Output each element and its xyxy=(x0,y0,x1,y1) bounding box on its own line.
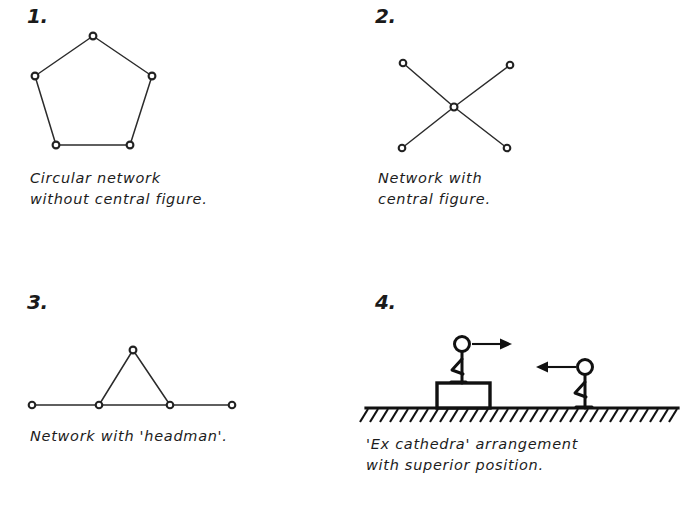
node-mid-right xyxy=(167,402,174,409)
panel-3: 3. Network with 'headman'. xyxy=(0,262,348,523)
panel-2-caption: Network with central figure. xyxy=(378,168,491,210)
node-far-left xyxy=(29,402,36,409)
panel-1-caption: Circular network without central figure. xyxy=(30,168,208,210)
node-bottom-right xyxy=(127,142,134,149)
pentagon-edges xyxy=(35,36,152,145)
ex-cathedra-diagram xyxy=(348,262,696,523)
edge-apex-midright xyxy=(133,350,170,405)
pentagon-network-diagram xyxy=(0,0,348,261)
panel-2: 2. Network with central figure. xyxy=(348,0,696,261)
panel-3-caption: Network with 'headman'. xyxy=(30,426,228,447)
edge-right-bottomright xyxy=(130,76,152,145)
node-headman xyxy=(130,347,137,354)
panel-4: 4. xyxy=(348,262,696,523)
stick-figure-subordinate xyxy=(575,360,593,409)
node-top-right xyxy=(507,62,514,69)
figure-sheet: 1. Circular network without central figu… xyxy=(0,0,696,523)
edge-apex-left xyxy=(35,36,93,76)
edge-midleft-apex xyxy=(99,350,133,405)
arrow-left-icon xyxy=(536,362,576,373)
node-top-left xyxy=(400,60,407,67)
arrow-right-icon xyxy=(472,339,512,350)
edge-apex-right xyxy=(93,36,152,76)
edge-topright-center xyxy=(454,65,510,107)
node-right xyxy=(149,73,156,80)
headman-edges xyxy=(32,350,232,405)
superior-head xyxy=(455,337,470,352)
stick-figure-superior xyxy=(451,337,470,384)
node-apex xyxy=(90,33,97,40)
platform-dais xyxy=(437,383,490,408)
edge-topleft-center xyxy=(403,63,454,107)
node-left xyxy=(32,73,39,80)
node-center xyxy=(451,104,458,111)
pentagon-nodes xyxy=(32,33,156,149)
headman-network-diagram xyxy=(0,262,348,523)
panel-4-caption: 'Ex cathedra' arrangement with superior … xyxy=(366,434,578,476)
node-mid-left xyxy=(96,402,103,409)
node-far-right xyxy=(229,402,236,409)
headman-nodes xyxy=(29,347,236,409)
node-bottom-left xyxy=(53,142,60,149)
edge-center-bottomleft xyxy=(402,107,454,148)
edge-center-bottomright xyxy=(454,107,507,148)
node-bottom-left xyxy=(399,145,406,152)
node-bottom-right xyxy=(504,145,511,152)
ground-hatching xyxy=(360,409,677,422)
subordinate-head xyxy=(578,360,593,375)
panel-1: 1. Circular network without central figu… xyxy=(0,0,348,261)
edge-left-bottomleft xyxy=(35,76,56,145)
star-network-diagram xyxy=(348,0,696,261)
